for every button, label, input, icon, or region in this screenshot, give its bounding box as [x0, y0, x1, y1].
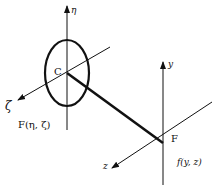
z-label: z [102, 161, 108, 171]
point-f-label: F [171, 133, 178, 144]
face-function-label: F(η, ζ) [18, 119, 51, 130]
zeta-label: ζ [5, 99, 13, 113]
image-function-label: f(y, z) [176, 157, 202, 167]
zeta-axis [18, 47, 110, 100]
eta-label: η [71, 5, 77, 15]
coordinate-diagram: η C ζ F(η, ζ) y F z f(y, z) [0, 0, 217, 192]
center-label: C [54, 66, 62, 77]
y-label: y [167, 59, 174, 69]
connecting-line [67, 73, 163, 143]
